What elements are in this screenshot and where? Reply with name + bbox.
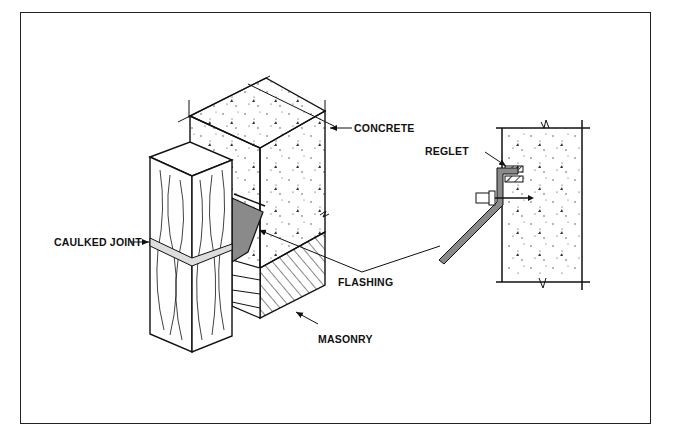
label-masonry: MASONRY bbox=[318, 333, 373, 345]
label-concrete: CONCRETE bbox=[354, 122, 415, 134]
wood-member bbox=[150, 142, 232, 352]
leader-masonry bbox=[296, 312, 318, 324]
label-reglet: REGLET bbox=[425, 145, 469, 157]
label-caulked-joint: CAULKED JOINT bbox=[54, 236, 142, 248]
label-flashing: FLASHING bbox=[338, 276, 393, 288]
diagram-drawing bbox=[0, 0, 673, 445]
